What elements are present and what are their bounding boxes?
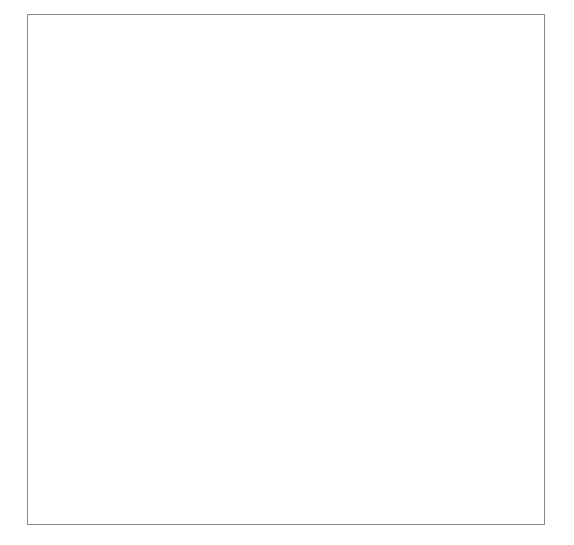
figure-frame [27, 14, 545, 525]
figure-root: Instruction cycle Execution cycle 1 4 2 … [0, 0, 574, 545]
